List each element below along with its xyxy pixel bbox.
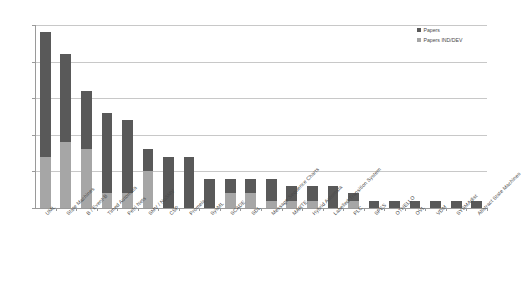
x-axis-label: SCADE [229,199,246,216]
x-axis-label: VDM [435,204,448,217]
legend-label: Papers IND/DEV [424,37,463,43]
x-axis-label: PLC [352,205,364,217]
x-axis-label: MARTE [291,199,308,216]
legend-label: Papers [424,27,440,33]
x-axis-label: OTHELLO [394,194,416,216]
x-axis-label: Promela [188,198,206,216]
x-axis-label: Petri Nets [126,195,147,216]
x-axis-label: CSP [168,204,180,216]
legend-swatch-icon [417,28,421,32]
x-axis-label: Abstract State Machines [476,171,521,217]
legend-swatch-icon [417,38,421,42]
legend-item-papers: Papers [417,27,462,33]
legend-item-papers-ind-dev: Papers IND/DEV [417,37,462,43]
x-axis-label: SysML [209,200,225,216]
chart-legend: Papers Papers IND/DEV [417,27,462,46]
x-axis-label: SYSMAdist [455,193,478,216]
x-axis-label: OVL [414,204,426,216]
x-axis-label: SDL [250,205,262,217]
